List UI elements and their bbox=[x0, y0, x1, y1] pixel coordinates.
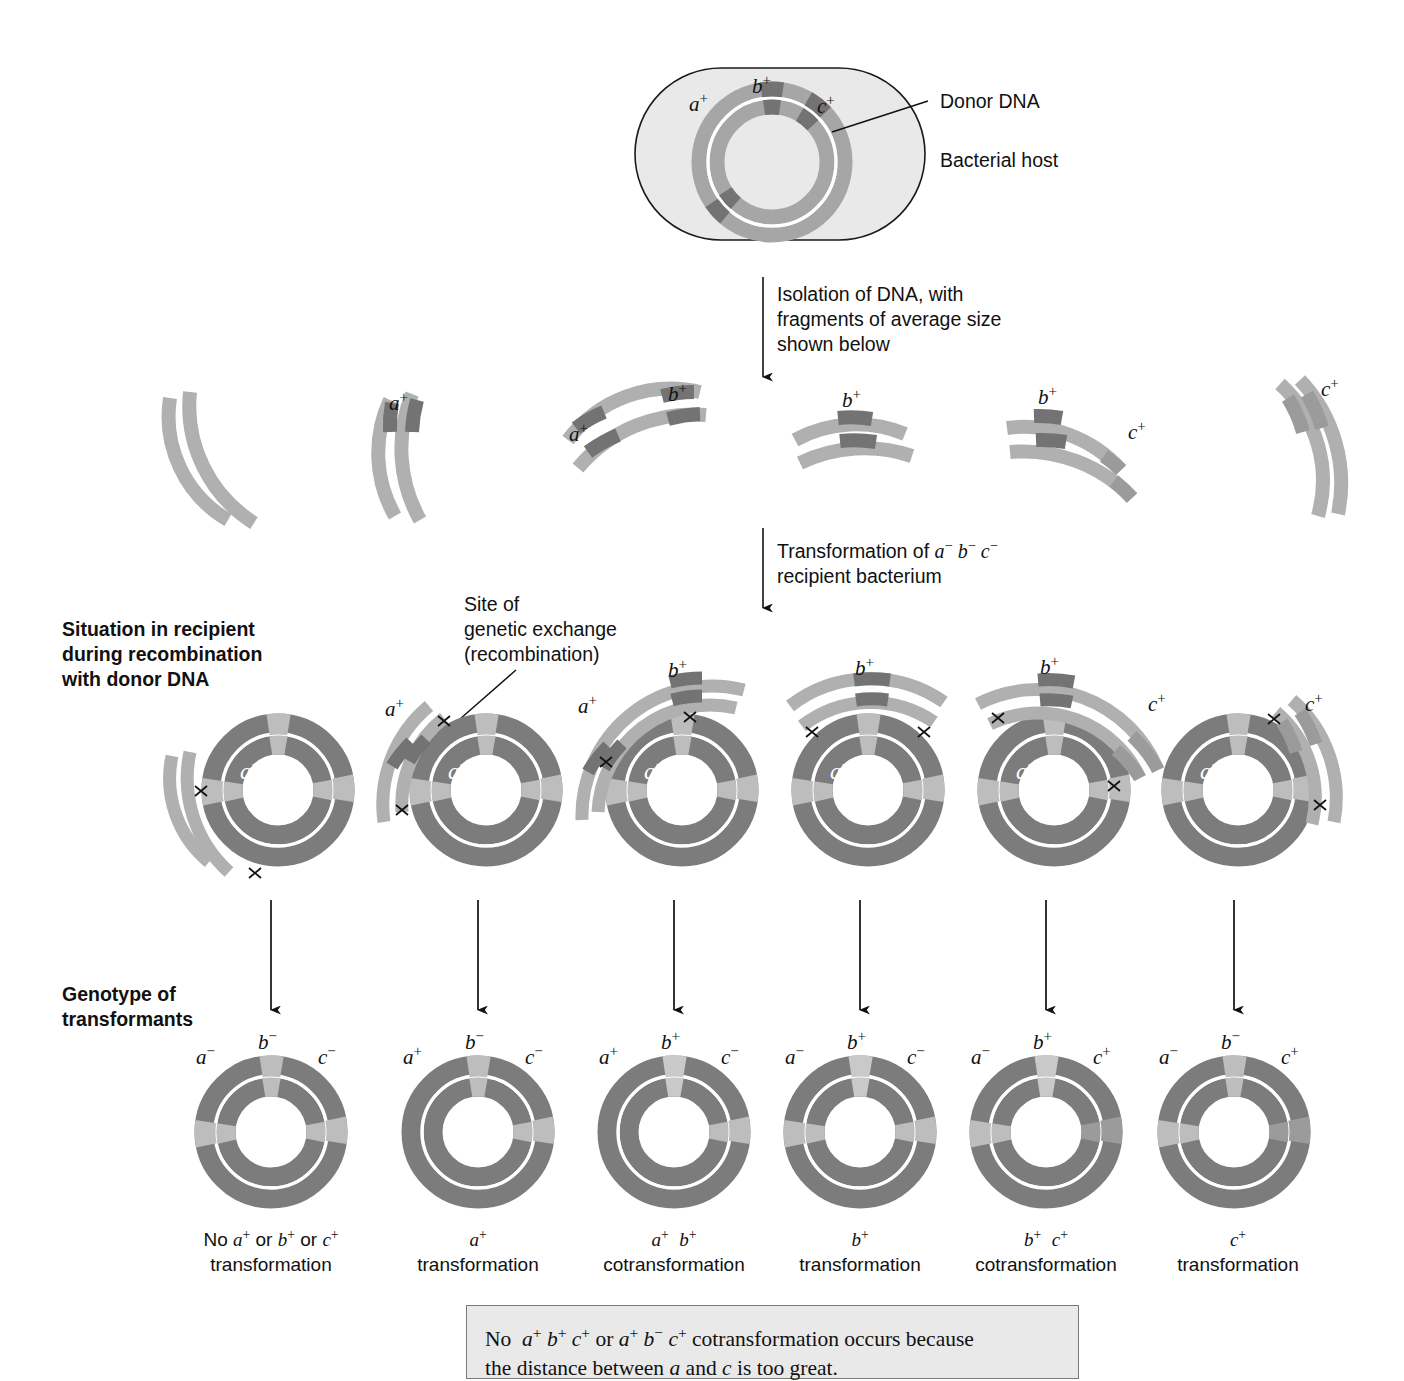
result-2-label-c: c− bbox=[525, 1043, 543, 1070]
footnote-text-6: is too great. bbox=[732, 1356, 838, 1380]
footnote-text-4: the distance between bbox=[485, 1356, 669, 1380]
result-6-label-b: b− bbox=[1221, 1028, 1240, 1055]
fragment-3-label-a: a+ bbox=[569, 420, 588, 447]
caption-3: a+ b+cotransformation bbox=[566, 1222, 782, 1277]
result-1-label-a: a− bbox=[196, 1043, 215, 1070]
result-3-label-c: c− bbox=[721, 1043, 739, 1070]
recomb-5-label-b: b+ bbox=[1040, 653, 1059, 680]
transformation-step-text: Transformation of a− b− c− recipient bac… bbox=[777, 533, 998, 589]
caption-2: a+transformation bbox=[380, 1222, 576, 1277]
recomb-4-label-b: b+ bbox=[855, 654, 874, 681]
fragment-3-label-b: b+ bbox=[668, 380, 687, 407]
result-5-label-c: c+ bbox=[1093, 1043, 1111, 1070]
caption-1-line2: transformation bbox=[210, 1254, 331, 1275]
caption-6: c+transformation bbox=[1140, 1222, 1336, 1277]
result-2-label-a: a+ bbox=[403, 1043, 422, 1070]
fragment-5-label-c: c+ bbox=[1128, 418, 1146, 445]
fragment-5 bbox=[1007, 416, 1132, 498]
recipient-chromosome-5 bbox=[988, 724, 1120, 856]
transformant-ring-3 bbox=[608, 1066, 740, 1198]
transformant-ring-6 bbox=[1168, 1066, 1300, 1198]
result-1-label-c: c− bbox=[318, 1043, 336, 1070]
bacterial-host-label: Bacterial host bbox=[940, 148, 1058, 173]
footnote-genotype-2: a+ b− c+ bbox=[619, 1327, 687, 1351]
recipient-genotype-6: a−b−c− bbox=[1200, 756, 1259, 785]
result-5-label-a: a− bbox=[971, 1043, 990, 1070]
recombination-cell-1 bbox=[170, 724, 344, 878]
result-4-label-c: c− bbox=[907, 1043, 925, 1070]
footnote-gene-a: a bbox=[669, 1356, 680, 1380]
caption-6-line2: transformation bbox=[1177, 1254, 1298, 1275]
recomb-6-label-c: c+ bbox=[1305, 690, 1323, 717]
fragment-2-label-a: a+ bbox=[389, 389, 408, 416]
fragment-4-label-b: b+ bbox=[842, 386, 861, 413]
recomb-5-label-c: c+ bbox=[1148, 690, 1166, 717]
footnote-text-3: cotransformation occurs because bbox=[687, 1327, 974, 1351]
transformation-step-line1: Transformation of bbox=[777, 540, 935, 562]
result-6-label-a: a− bbox=[1159, 1043, 1178, 1070]
result-arrows bbox=[271, 900, 1234, 1010]
figure-canvas: a+ b+ c+ Donor DNA Bacterial host Isolat… bbox=[0, 0, 1404, 1381]
fragment-1 bbox=[169, 392, 254, 523]
transformant-ring-2 bbox=[412, 1066, 544, 1198]
recipient-genotype-4: a−b−c− bbox=[830, 756, 889, 785]
caption-5-line2: cotransformation bbox=[975, 1254, 1117, 1275]
footnote-text-1: No bbox=[485, 1327, 517, 1351]
exchange-site-annotation: Site of genetic exchange (recombination) bbox=[464, 592, 617, 667]
recomb-3-label-b: b+ bbox=[668, 656, 687, 683]
result-1-label-b: b− bbox=[258, 1028, 277, 1055]
donor-gene-label-a: a+ bbox=[689, 90, 708, 117]
row-label-genotype: Genotype of transformants bbox=[62, 982, 193, 1032]
recipient-genotype-2: a−b−c− bbox=[448, 756, 507, 785]
transformant-ring-1 bbox=[205, 1066, 337, 1198]
result-3-label-a: a+ bbox=[599, 1043, 618, 1070]
transformation-step-line2: recipient bacterium bbox=[777, 565, 942, 587]
transformant-ring-4 bbox=[794, 1066, 926, 1198]
footnote-text-2: or bbox=[590, 1327, 619, 1351]
recipient-genotype-3: a−b−c− bbox=[644, 756, 703, 785]
recomb-2-label-a: a+ bbox=[385, 695, 404, 722]
result-4-label-b: b+ bbox=[847, 1028, 866, 1055]
isolation-step-text: Isolation of DNA, with fragments of aver… bbox=[777, 282, 1001, 357]
footnote-gene-c: c bbox=[722, 1356, 732, 1380]
caption-4-line2: transformation bbox=[799, 1254, 920, 1275]
fragment-4 bbox=[795, 417, 912, 463]
recipient-chromosome-1 bbox=[212, 724, 344, 856]
result-6-label-c: c+ bbox=[1281, 1043, 1299, 1070]
result-2-label-b: b− bbox=[465, 1028, 484, 1055]
fragment-5-label-b: b+ bbox=[1038, 383, 1057, 410]
donor-dna-label: Donor DNA bbox=[940, 89, 1040, 114]
recipient-chromosome-2 bbox=[420, 724, 552, 856]
fragment-6-label-c: c+ bbox=[1321, 375, 1339, 402]
donor-gene-label-c: c+ bbox=[817, 92, 835, 119]
recipient-chromosome-6 bbox=[1172, 724, 1304, 856]
caption-3-line2: cotransformation bbox=[603, 1254, 745, 1275]
result-3-label-b: b+ bbox=[661, 1028, 680, 1055]
caption-2-line2: transformation bbox=[417, 1254, 538, 1275]
transformation-step-genotype: a− b− c− bbox=[935, 540, 998, 562]
caption-1: No a+ or b+ or c+transformation bbox=[171, 1222, 371, 1277]
recomb-3-label-a: a+ bbox=[578, 692, 597, 719]
result-5-label-b: b+ bbox=[1033, 1028, 1052, 1055]
recipient-chromosome-3 bbox=[616, 724, 748, 856]
recipient-genotype-5: a−b−c− bbox=[1016, 756, 1075, 785]
footnote-genotype-1: a+ b+ c+ bbox=[517, 1327, 590, 1351]
footnote-box: No a+ b+ c+ or a+ b− c+ cotransformation… bbox=[466, 1305, 1079, 1379]
caption-4: b+transformation bbox=[762, 1222, 958, 1277]
recipient-chromosome-4 bbox=[802, 724, 934, 856]
transformant-ring-5 bbox=[980, 1066, 1112, 1198]
caption-5: b+ c+cotransformation bbox=[938, 1222, 1154, 1277]
row-label-recombination: Situation in recipient during recombinat… bbox=[62, 617, 262, 692]
donor-gene-label-b: b+ bbox=[752, 72, 771, 99]
recipient-genotype-1: a−b−c− bbox=[240, 756, 299, 785]
result-4-label-a: a− bbox=[785, 1043, 804, 1070]
footnote-text-5: and bbox=[680, 1356, 722, 1380]
